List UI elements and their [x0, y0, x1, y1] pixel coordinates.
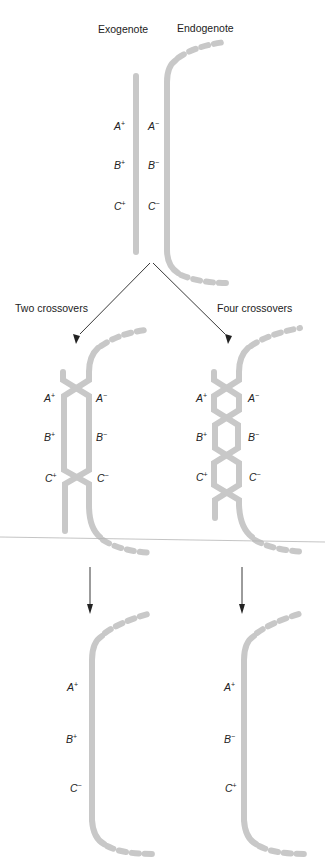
allele-label: B+ [114, 159, 125, 171]
allele-label: B− [248, 431, 259, 443]
allele-label: B− [148, 159, 159, 171]
allele-label: C− [70, 782, 82, 794]
allele-label: B− [96, 431, 107, 443]
arrow-to-two-crossovers [80, 263, 150, 334]
four-crossover-pairing [214, 328, 305, 552]
allele-label: C− [148, 200, 160, 212]
allele-label: A+ [113, 120, 125, 132]
allele-label: A− [247, 392, 259, 404]
result-arrows [87, 567, 245, 614]
arrowhead-icon [73, 334, 80, 344]
allele-label: C+ [225, 782, 237, 794]
allele-label: C− [249, 471, 261, 483]
allele-label: B− [224, 733, 235, 745]
arrowhead-icon [87, 604, 93, 614]
allele-label: B+ [44, 431, 55, 443]
endogenote-strand [167, 42, 228, 283]
arrow-to-four-crossovers [153, 263, 225, 334]
endogenote-alleles: A− B− C− [147, 120, 160, 212]
arrowhead-icon [225, 334, 232, 344]
allele-label: C+ [114, 200, 126, 212]
top-section: Exogenote Endogenote A+ B+ C+ A− B− C− [98, 22, 234, 283]
allele-label: A+ [43, 392, 55, 404]
two-crossover-pairing [63, 330, 152, 553]
allele-label: A− [147, 120, 159, 132]
two-crossover-alleles: A+ B+ C+ A− B− C− [43, 392, 109, 484]
allele-label: B+ [196, 431, 207, 443]
four-crossover-result: A+ B− C+ [223, 613, 305, 854]
two-crossover-result: A+ B+ C− [66, 614, 152, 854]
allele-label: A+ [195, 392, 207, 404]
exogenote-alleles: A+ B+ C+ [113, 120, 126, 212]
separator-line [0, 537, 325, 542]
allele-label: C− [97, 472, 109, 484]
allele-label: A+ [223, 681, 235, 693]
recombination-diagram: Exogenote Endogenote A+ B+ C+ A− B− C− [0, 0, 325, 868]
allele-label: A− [95, 392, 107, 404]
four-crossovers-label: Four crossovers [217, 302, 292, 314]
arrowhead-icon [239, 604, 245, 614]
allele-label: C+ [45, 472, 57, 484]
four-crossover-alleles: A+ B+ C+ A− B− C− [195, 392, 261, 483]
two-crossovers-label: Two crossovers [15, 302, 88, 314]
exogenote-label: Exogenote [98, 23, 148, 35]
branch-arrows [73, 263, 232, 344]
allele-label: B+ [66, 733, 77, 745]
allele-label: A+ [66, 681, 78, 693]
endogenote-label: Endogenote [177, 22, 234, 34]
allele-label: C+ [196, 471, 208, 483]
